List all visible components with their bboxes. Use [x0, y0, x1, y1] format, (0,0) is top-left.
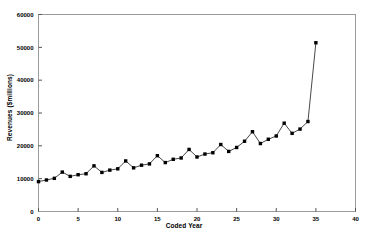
x-axis-title: Coded Year [0, 222, 368, 229]
svg-text:60000: 60000 [17, 12, 34, 18]
svg-text:10000: 10000 [17, 176, 34, 182]
data-series-revenues [37, 41, 318, 183]
svg-text:30000: 30000 [17, 110, 34, 116]
svg-text:40000: 40000 [17, 77, 34, 83]
svg-text:50000: 50000 [17, 45, 34, 51]
svg-text:5: 5 [76, 216, 80, 222]
svg-text:20000: 20000 [17, 143, 34, 149]
svg-text:15: 15 [154, 216, 161, 222]
svg-text:30: 30 [273, 216, 280, 222]
svg-text:10: 10 [114, 216, 121, 222]
plot-frame [39, 15, 356, 212]
svg-text:25: 25 [233, 216, 240, 222]
svg-text:0: 0 [30, 209, 34, 215]
svg-text:35: 35 [313, 216, 320, 222]
svg-text:0: 0 [37, 216, 41, 222]
chart-canvas: 0100002000030000400005000060000 05101520… [0, 0, 368, 234]
svg-text:40: 40 [352, 216, 359, 222]
y-axis-title: Revenues ($millions) [6, 73, 13, 143]
revenue-line-chart: 0100002000030000400005000060000 05101520… [0, 0, 368, 234]
x-axis-ticks: 0510152025303540 [37, 208, 360, 222]
svg-text:20: 20 [194, 216, 201, 222]
